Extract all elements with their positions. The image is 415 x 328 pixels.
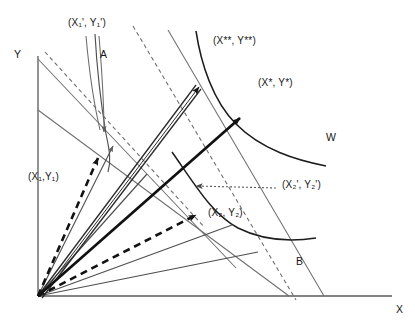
diagram-canvas: Y X (X₁', Y₁') (X₁,Y₁) (X₂', Y₂') (X₂, Y… bbox=[0, 0, 415, 328]
curve-w bbox=[196, 31, 326, 166]
curve-b-label: B bbox=[296, 255, 303, 267]
label-x2-prime-y2-prime: (X₂', Y₂') bbox=[282, 180, 321, 190]
curve-w-label: W bbox=[326, 131, 336, 143]
curve-b bbox=[172, 152, 316, 240]
budget-line-dashed-2 bbox=[133, 26, 296, 300]
label-x2-y2: (X₂, Y₂) bbox=[208, 208, 243, 218]
axis-lines bbox=[38, 56, 392, 296]
x-axis-label: X bbox=[396, 303, 403, 315]
label-x1-prime-y1-prime: (X₁', Y₁') bbox=[68, 18, 106, 28]
ray-thin-1 bbox=[38, 146, 113, 296]
diagram-svg bbox=[0, 0, 415, 328]
label-x-star: (X*, Y*) bbox=[258, 78, 293, 88]
y-axis-label: Y bbox=[14, 48, 21, 60]
label-x-star-star: (X**, Y**) bbox=[213, 36, 256, 46]
label-x1-y1: (X₁,Y₁) bbox=[28, 172, 59, 182]
leader-x2p-y2p bbox=[196, 186, 276, 188]
budget-line-dashed-1 bbox=[45, 52, 205, 228]
curve-a-label: A bbox=[100, 48, 107, 60]
